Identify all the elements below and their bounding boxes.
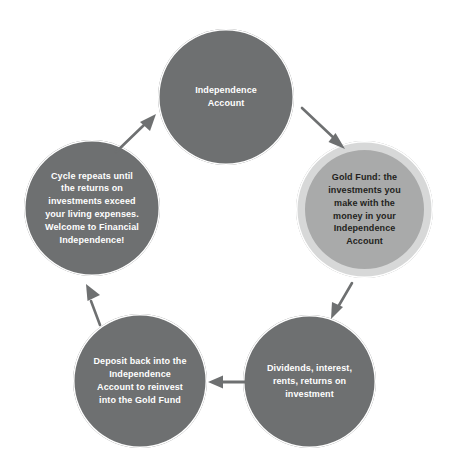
node-gold-fund-label: Gold Fund: the investments you make with… — [312, 171, 416, 248]
arrow-deposit-to-cycle-icon — [76, 281, 116, 327]
node-deposit-back[interactable]: Deposit back into the Independence Accou… — [73, 314, 207, 448]
node-independence-account-label: Independence Account — [168, 84, 285, 110]
node-gold-fund[interactable]: Gold Fund: the investments you make with… — [296, 141, 433, 278]
arrow-cycle-to-account-icon — [112, 108, 166, 156]
node-cycle-repeats[interactable]: Cycle repeats until the returns on inves… — [24, 140, 160, 276]
node-returns[interactable]: Dividends, interest, rents, returns on i… — [243, 315, 376, 448]
arrow-goldfund-to-returns-icon — [326, 281, 366, 327]
node-independence-account[interactable]: Independence Account — [158, 29, 294, 165]
node-deposit-back-label: Deposit back into the Independence Accou… — [78, 355, 201, 406]
node-returns-label: Dividends, interest, rents, returns on i… — [252, 362, 366, 400]
cycle-diagram: Independence Account Gold Fund: the inve… — [0, 0, 460, 471]
arrow-returns-to-deposit-icon — [206, 374, 250, 390]
arrow-account-to-goldfund-icon — [300, 106, 362, 158]
node-cycle-repeats-label: Cycle repeats until the returns on inves… — [29, 170, 154, 247]
